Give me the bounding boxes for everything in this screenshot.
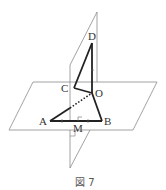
label-O: O bbox=[95, 87, 103, 99]
label-B: B bbox=[104, 115, 111, 127]
figure-caption: 図 7 bbox=[75, 177, 95, 188]
hidden-segment-AO bbox=[70, 93, 92, 108]
geometry-figure: D C O A B M 図 7 bbox=[0, 0, 166, 190]
label-M: M bbox=[73, 122, 83, 134]
label-C: C bbox=[61, 82, 68, 94]
label-A: A bbox=[39, 115, 47, 127]
horizontal-plane bbox=[9, 82, 157, 130]
label-D: D bbox=[88, 30, 96, 42]
